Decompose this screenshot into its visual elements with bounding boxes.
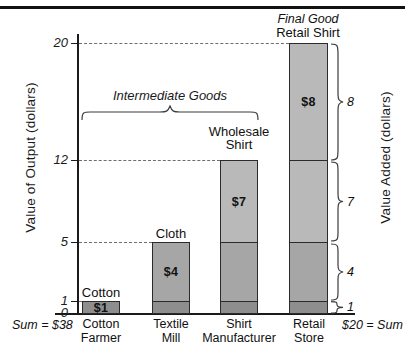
bar-cotton-farmer[interactable]: $1: [82, 301, 120, 314]
category-label-retail-store: Retail Store: [280, 318, 338, 346]
y-axis-line: [77, 34, 79, 315]
segment-value-cotton: $1: [94, 301, 109, 315]
segment-textile-input-1[interactable]: [152, 301, 190, 314]
sum-label-left: Sum = $38: [12, 318, 73, 332]
top-divider-rule: [0, 6, 405, 9]
bar-textile-mill[interactable]: $4: [152, 242, 190, 314]
intermediate-goods-brace: [80, 105, 260, 121]
category-label-cotton-farmer: Cotton Farmer: [72, 318, 130, 346]
y-tick-mark-5: [71, 242, 79, 243]
segment-cotton-value-added-1[interactable]: $1: [82, 301, 120, 314]
bar-label-cloth-text: Cloth: [156, 226, 186, 241]
y-tick-mark-1: [71, 301, 79, 302]
bar-retail-store[interactable]: $8: [289, 43, 328, 314]
category-label-textile-mill: Textile Mill: [142, 318, 200, 346]
segment-shirt-input-1[interactable]: [220, 301, 258, 314]
y-tick-label-20: 20: [30, 36, 68, 49]
segment-retail-input-7[interactable]: [289, 160, 328, 243]
category-line-1-textile: Textile: [142, 318, 200, 332]
chart-canvas: 20 12 5 1 0 Value of Output (dollars) Va…: [0, 0, 405, 362]
bar-label-wholesale-shirt: Wholesale Shirt: [196, 125, 282, 152]
intermediate-goods-label: Intermediate Goods: [90, 88, 250, 103]
segment-value-textile: $4: [164, 265, 179, 279]
segment-shirt-value-added-7[interactable]: $7: [220, 160, 258, 243]
y-tick-mark-0: [71, 313, 79, 314]
brace-value-added-8: [330, 43, 344, 161]
brace-value-added-7: [330, 161, 344, 242]
brace-value-added-4: [330, 243, 344, 301]
bar-label-cloth: Cloth: [132, 227, 210, 240]
bar-label-wholesale-line-1: Wholesale: [196, 125, 282, 138]
category-line-2-textile: Mill: [142, 332, 200, 346]
bar-label-cotton: Cotton: [62, 286, 140, 299]
y-axis-title-right: Value Added (dollars): [378, 58, 393, 258]
gridline-5: [79, 242, 152, 243]
y-tick-mark-20: [71, 43, 79, 44]
category-line-2-cotton: Farmer: [72, 332, 130, 346]
category-line-1-retail: Retail: [280, 318, 338, 332]
gridline-20: [79, 43, 289, 44]
brace-label-7: 7: [347, 195, 354, 209]
category-line-2-retail: Store: [280, 332, 338, 346]
y-tick-mark-12: [71, 160, 79, 161]
segment-retail-input-4[interactable]: [289, 242, 328, 302]
category-line-1-shirt: Shirt: [197, 318, 281, 332]
segment-retail-input-1[interactable]: [289, 301, 328, 314]
segment-retail-value-added-8[interactable]: $8: [289, 43, 328, 161]
bar-label-cotton-text: Cotton: [82, 285, 120, 300]
brace-label-8: 8: [347, 95, 354, 109]
segment-textile-value-added-4[interactable]: $4: [152, 242, 190, 302]
bar-shirt-manufacturer[interactable]: $7: [220, 160, 258, 314]
gridline-12: [79, 160, 220, 161]
category-label-shirt-manufacturer: Shirt Manufacturer: [197, 318, 281, 346]
category-line-2-shirt: Manufacturer: [197, 332, 281, 346]
brace-label-1: 1: [347, 300, 354, 314]
bar-label-retail-shirt: Final Good Retail Shirt: [262, 13, 354, 39]
segment-shirt-input-4[interactable]: [220, 242, 258, 302]
bar-label-wholesale-line-2: Shirt: [196, 138, 282, 151]
y-axis-title-left: Value of Output (dollars): [23, 58, 38, 258]
brace-label-4: 4: [347, 265, 354, 279]
category-line-1-cotton: Cotton: [72, 318, 130, 332]
segment-value-retail: $8: [301, 95, 316, 109]
brace-value-added-1: [330, 301, 344, 314]
sum-label-right: $20 = Sum: [342, 318, 403, 332]
segment-value-shirt: $7: [232, 195, 247, 209]
bar-label-retail-shirt-text: Retail Shirt: [276, 25, 340, 40]
